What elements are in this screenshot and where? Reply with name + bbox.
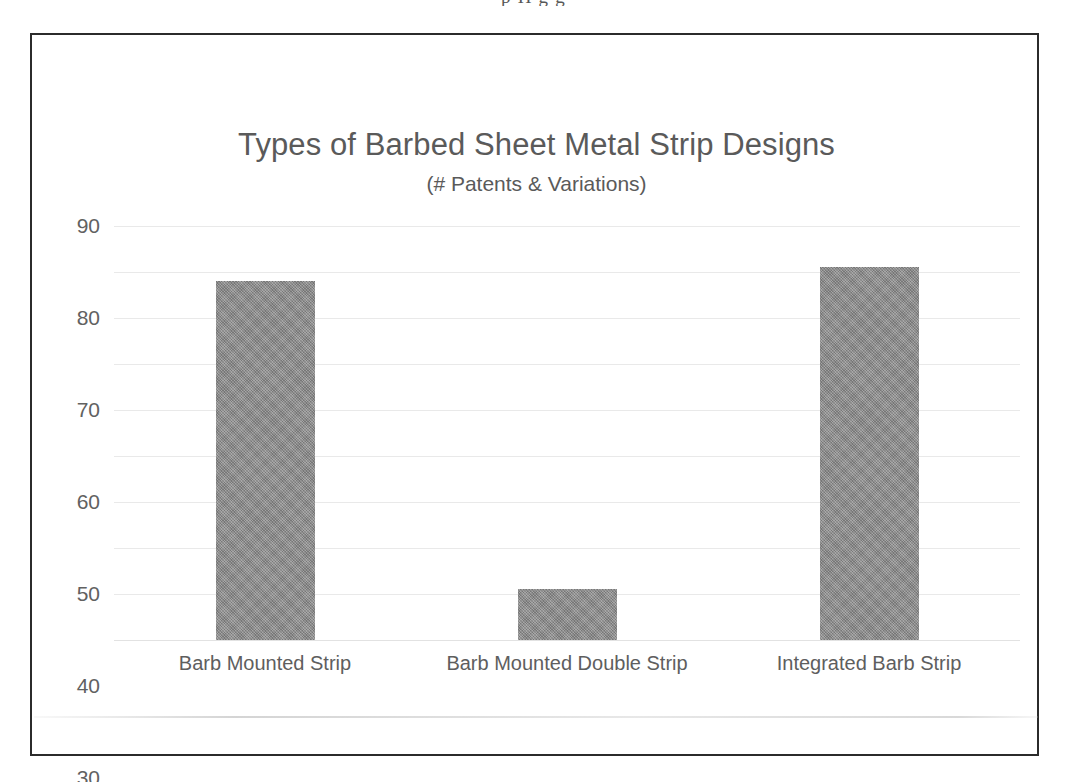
x-axis-category-label: Integrated Barb Strip (777, 652, 962, 675)
y-axis-tick-label: 80 (77, 306, 100, 330)
y-axis-tick-label: 70 (77, 398, 100, 422)
chart-container: Types of Barbed Sheet Metal Strip Design… (30, 33, 1039, 756)
y-axis-tick-label: 60 (77, 490, 100, 514)
bar-series (114, 226, 1020, 640)
bar (820, 267, 919, 640)
y-axis-tick-label: 40 (77, 674, 100, 698)
bar (518, 589, 617, 640)
bar (216, 281, 315, 640)
chart-subtitle: (# Patents & Variations) (32, 172, 1041, 196)
plot-area: 9080706050403020100 (114, 226, 1020, 640)
y-axis-tick-label: 50 (77, 582, 100, 606)
x-axis-category-label: Barb Mounted Double Strip (446, 652, 687, 675)
gridline-0: 0 (114, 640, 1020, 641)
scanned-page-text-fragment: p H g g (0, 0, 1067, 6)
y-axis-tick-label: 30 (77, 766, 100, 782)
chart-title: Types of Barbed Sheet Metal Strip Design… (32, 127, 1041, 163)
x-axis-category-labels: Barb Mounted StripBarb Mounted Double St… (114, 652, 1020, 686)
x-axis-category-label: Barb Mounted Strip (179, 652, 351, 675)
y-axis-tick-label: 90 (77, 214, 100, 238)
